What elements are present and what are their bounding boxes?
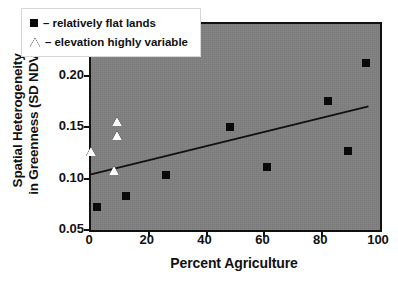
- x-axis-title: Percent Agriculture: [89, 255, 379, 271]
- y-axis-title-line1: Spatial Heterogeneity: [10, 46, 26, 195]
- data-point-s1-1: [109, 166, 119, 175]
- data-point-s0-6: [344, 147, 352, 155]
- data-point-s0-3: [226, 123, 234, 131]
- x-tick-mark-3: [263, 230, 265, 237]
- filled-square-icon: [30, 19, 38, 27]
- data-point-s1-2: [112, 131, 122, 140]
- x-tick-label-3: 60: [255, 232, 269, 247]
- y-tick-label-2: 0.15: [59, 118, 84, 133]
- x-tick-label-5: 100: [367, 232, 389, 247]
- data-point-s0-7: [362, 59, 370, 67]
- data-point-s0-2: [162, 171, 170, 179]
- legend-label-1: elevation highly variable: [54, 36, 188, 48]
- data-point-s0-5: [324, 97, 332, 105]
- legend-item-flat-lands: – relatively flat lands: [30, 15, 188, 31]
- legend-item-elevation-variable: – elevation highly variable: [30, 34, 188, 50]
- x-tick-mark-1: [148, 230, 150, 237]
- y-tick-mark-2: [84, 126, 91, 128]
- scatter-chart: Spatial Heterogeneity in Greenness (SD N…: [0, 0, 398, 285]
- legend-dash-1: –: [45, 36, 51, 48]
- y-tick-mark-0: [84, 229, 91, 231]
- data-point-s0-0: [93, 203, 101, 211]
- data-point-s1-3: [112, 117, 122, 126]
- x-tick-label-4: 80: [313, 232, 327, 247]
- data-point-s0-1: [122, 192, 130, 200]
- x-tick-label-2: 40: [197, 232, 211, 247]
- legend-dash-0: –: [43, 17, 49, 29]
- x-tick-mark-4: [321, 230, 323, 237]
- x-tick-label-1: 20: [140, 232, 154, 247]
- y-tick-label-1: 0.10: [59, 169, 84, 184]
- chart-legend: – relatively flat lands – elevation high…: [21, 8, 201, 57]
- x-tick-label-0: 0: [85, 232, 92, 247]
- x-tick-mark-2: [206, 230, 208, 237]
- open-triangle-icon: [30, 38, 40, 47]
- data-point-s1-0: [86, 147, 96, 156]
- legend-label-0: relatively flat lands: [52, 17, 156, 29]
- x-axis-tick-labels: 020406080100: [0, 232, 398, 252]
- y-tick-mark-3: [84, 75, 91, 77]
- y-tick-label-3: 0.20: [59, 66, 84, 81]
- data-point-s0-4: [263, 163, 271, 171]
- y-tick-mark-1: [84, 178, 91, 180]
